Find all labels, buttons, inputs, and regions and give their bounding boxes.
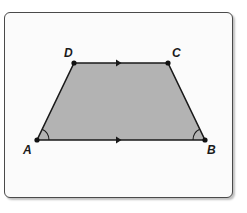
label-c: C bbox=[172, 46, 181, 60]
vertex-a bbox=[34, 137, 39, 142]
label-a: A bbox=[22, 143, 32, 157]
vertex-c bbox=[165, 60, 170, 65]
vertex-b bbox=[202, 137, 207, 142]
label-d: D bbox=[64, 46, 73, 60]
vertex-d bbox=[71, 60, 76, 65]
diagram-canvas: D C A B bbox=[0, 0, 247, 213]
label-b: B bbox=[207, 143, 216, 157]
trapezoid-figure: D C A B bbox=[0, 0, 247, 213]
trapezoid-abcd bbox=[37, 63, 205, 140]
